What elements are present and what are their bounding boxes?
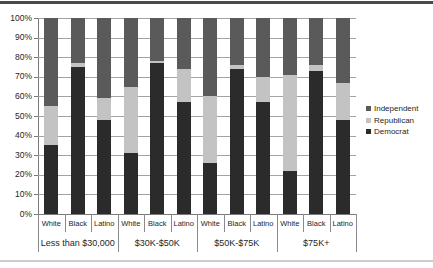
segment-republican: [283, 75, 297, 171]
segment-independent: [177, 18, 191, 69]
plot-area: [38, 18, 356, 214]
stacked-bar--30k-50k-white: [124, 18, 138, 214]
segment-democrat: [230, 69, 244, 214]
stacked-bar--75k--black: [309, 18, 323, 214]
segment-independent: [309, 18, 323, 65]
category-separator: [171, 214, 172, 232]
segment-republican: [203, 96, 217, 163]
category-separator: [250, 214, 251, 232]
segment-republican: [150, 61, 164, 63]
legend-label: Independent: [374, 104, 419, 113]
stacked-bar-less-than-30-000-latino: [97, 18, 111, 214]
x-group-label: Less than $30,000: [38, 238, 118, 248]
x-category-label: Black: [65, 219, 92, 228]
segment-democrat: [44, 145, 58, 214]
bottom-horizontal-rule: [0, 260, 433, 262]
segment-republican: [97, 98, 111, 120]
category-separator: [224, 214, 225, 232]
segment-independent: [97, 18, 111, 98]
category-separator: [91, 214, 92, 232]
y-tick-label: 20%: [0, 170, 32, 179]
category-separator: [303, 214, 304, 232]
category-separator: [65, 214, 66, 232]
segment-democrat: [283, 171, 297, 214]
x-group-label: $75K+: [277, 238, 357, 248]
x-category-label: Black: [144, 219, 171, 228]
stacked-bar--30k-50k-black: [150, 18, 164, 214]
y-tick-label: 100%: [0, 14, 32, 23]
stacked-bar-less-than-30-000-white: [44, 18, 58, 214]
x-category-label: White: [38, 219, 65, 228]
segment-democrat: [203, 163, 217, 214]
stacked-bar--75k--white: [283, 18, 297, 214]
x-category-label: Latino: [250, 219, 277, 228]
segment-independent: [256, 18, 270, 77]
x-group-label: $50K-$75K: [197, 238, 277, 248]
legend-item-democrat: Democrat: [366, 126, 419, 138]
segment-republican: [124, 87, 138, 154]
y-tick-label: 30%: [0, 151, 32, 160]
y-tick-label: 0%: [0, 210, 32, 219]
legend-marker-icon: [366, 106, 371, 111]
segment-democrat: [309, 71, 323, 214]
x-category-label: White: [197, 219, 224, 228]
segment-democrat: [71, 67, 85, 214]
stacked-bar--50k-75k-black: [230, 18, 244, 214]
legend: IndependentRepublicanDemocrat: [366, 103, 419, 138]
legend-marker-icon: [366, 118, 371, 123]
segment-independent: [44, 18, 58, 106]
y-tick-label: 50%: [0, 112, 32, 121]
segment-democrat: [336, 120, 350, 214]
segment-independent: [283, 18, 297, 75]
y-tick-label: 40%: [0, 131, 32, 140]
page: 100%90%80%70%60%50%40%30%20%10%0% WhiteB…: [0, 0, 433, 268]
y-tick-label: 10%: [0, 190, 32, 199]
legend-label: Democrat: [374, 127, 409, 136]
x-category-label: Latino: [330, 219, 357, 228]
segment-independent: [150, 18, 164, 61]
legend-label: Republican: [374, 116, 414, 125]
segment-republican: [336, 83, 350, 120]
category-separator: [330, 214, 331, 232]
top-horizontal-rule: [0, 1, 433, 4]
stacked-bar--50k-75k-white: [203, 18, 217, 214]
segment-republican: [309, 65, 323, 71]
segment-republican: [256, 77, 270, 102]
x-category-label: Latino: [91, 219, 118, 228]
y-tick-label: 70%: [0, 72, 32, 81]
legend-item-republican: Republican: [366, 115, 419, 127]
segment-democrat: [150, 63, 164, 214]
segment-democrat: [97, 120, 111, 214]
x-category-label: White: [118, 219, 145, 228]
stacked-bar-less-than-30-000-black: [71, 18, 85, 214]
segment-republican: [71, 63, 85, 67]
segment-democrat: [256, 102, 270, 214]
segment-republican: [177, 69, 191, 102]
y-tick-label: 60%: [0, 92, 32, 101]
stacked-bar--30k-50k-latino: [177, 18, 191, 214]
segment-independent: [230, 18, 244, 65]
x-category-label: Latino: [171, 219, 198, 228]
segment-republican: [230, 65, 244, 69]
y-tick-label: 80%: [0, 53, 32, 62]
legend-item-independent: Independent: [366, 103, 419, 115]
y-tick-label: 90%: [0, 33, 32, 42]
segment-democrat: [177, 102, 191, 214]
segment-independent: [124, 18, 138, 87]
group-separator: [356, 214, 357, 252]
stacked-bar--75k--latino: [336, 18, 350, 214]
segment-independent: [203, 18, 217, 96]
segment-independent: [71, 18, 85, 63]
stacked-bar--50k-75k-latino: [256, 18, 270, 214]
x-group-label: $30K-$50K: [118, 238, 198, 248]
segment-democrat: [124, 153, 138, 214]
segment-republican: [44, 106, 58, 145]
legend-marker-icon: [366, 129, 371, 134]
x-category-label: White: [277, 219, 304, 228]
segment-independent: [336, 18, 350, 83]
x-category-label: Black: [303, 219, 330, 228]
x-category-label: Black: [224, 219, 251, 228]
category-separator: [144, 214, 145, 232]
